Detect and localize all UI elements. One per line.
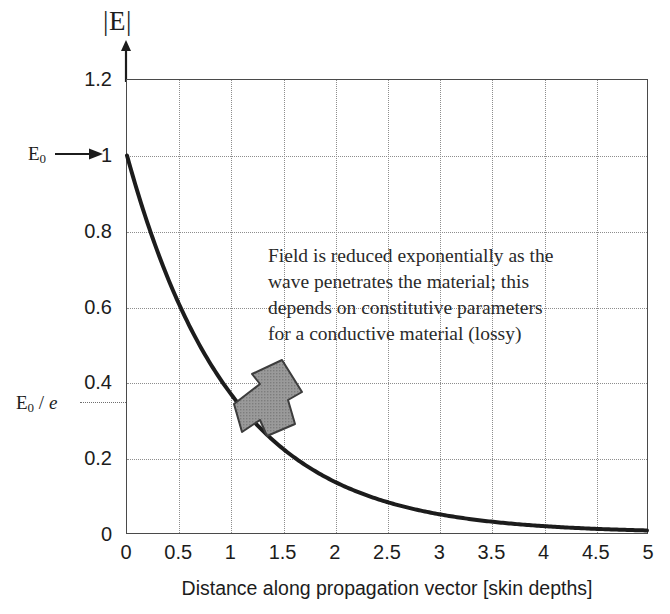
- y-tick-label: 0.4: [84, 371, 112, 394]
- x-tick-label: 3: [434, 541, 445, 564]
- y-axis-arrow-icon: [119, 40, 133, 82]
- x-tick-label: 1: [225, 541, 236, 564]
- x-tick-label: 4.5: [582, 541, 610, 564]
- x-tick-label: 5: [642, 541, 653, 564]
- y-tick-label: 0.8: [84, 219, 112, 242]
- figure-root: |E| E0 E0 / e 00.20.40.60.811.2 00.511.5…: [0, 0, 670, 614]
- note-line-4: for a conductive material (lossy): [268, 321, 598, 347]
- x-tick-label: 3.5: [477, 541, 505, 564]
- x-tick-label: 1.5: [269, 541, 297, 564]
- x-tick-label: 4: [538, 541, 549, 564]
- y-tick-label: 0: [101, 523, 112, 546]
- note-line-3: depends on constitutive parameters: [268, 295, 598, 321]
- y-tick-label: 0.2: [84, 447, 112, 470]
- y-tick-label: 0.6: [84, 295, 112, 318]
- note-line-1: Field is reduced exponentially as the: [268, 243, 598, 269]
- x-tick-label: 2: [329, 541, 340, 564]
- pointer-block-arrow-icon: [222, 358, 326, 440]
- x-axis-label: Distance along propagation vector [skin …: [126, 577, 648, 600]
- x-tick-label: 0.5: [164, 541, 192, 564]
- x-tick-label: 2.5: [373, 541, 401, 564]
- y-tick-label: 1.2: [84, 68, 112, 91]
- annotation-note: Field is reduced exponentially as the wa…: [268, 243, 598, 347]
- note-line-2: wave penetrates the material; this: [268, 269, 598, 295]
- x-tick-label: 0: [120, 541, 131, 564]
- y-axis-tick-labels: 00.20.40.60.811.2: [0, 0, 120, 614]
- y-tick-label: 1: [101, 143, 112, 166]
